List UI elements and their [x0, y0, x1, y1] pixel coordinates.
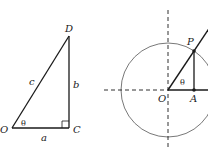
- label-c-vertex: C: [73, 124, 81, 135]
- label-d: D: [64, 23, 73, 34]
- label-o-right: O: [158, 93, 166, 104]
- label-o-left: O: [0, 124, 8, 135]
- point-a: [192, 88, 196, 92]
- point-p: [192, 49, 196, 53]
- label-theta-left: θ: [21, 119, 26, 128]
- label-c-hyp: c: [29, 76, 35, 87]
- right-angle-marker: [62, 121, 69, 128]
- unit-circle-figure: P θ O A: [104, 10, 208, 149]
- side-od-hypotenuse: [12, 36, 69, 128]
- label-a-foot: A: [189, 93, 197, 104]
- label-theta-right: θ: [180, 78, 185, 87]
- right-triangle-figure: D c b O θ a C: [0, 23, 81, 143]
- label-b: b: [73, 79, 79, 90]
- label-p: P: [186, 36, 194, 47]
- diagram-canvas: D c b O θ a C P θ O A: [0, 0, 208, 149]
- label-a: a: [41, 132, 47, 143]
